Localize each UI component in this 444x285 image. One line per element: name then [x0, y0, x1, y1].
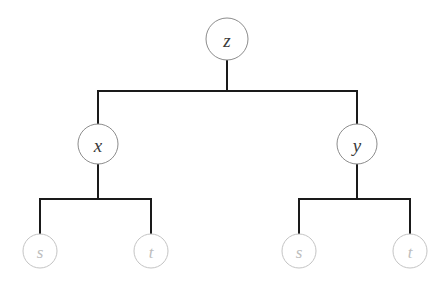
node-label: y: [351, 135, 362, 156]
node-label: s: [296, 243, 303, 262]
node-label: z: [222, 30, 231, 51]
node-label: s: [37, 243, 44, 262]
tree-node-z[interactable]: z: [206, 18, 248, 60]
tree-diagram: zxystst: [0, 0, 444, 285]
node-label: x: [93, 135, 103, 156]
tree-node-s-leaf[interactable]: s: [23, 234, 57, 268]
tree-node-y[interactable]: y: [337, 124, 377, 164]
node-layer: zxystst: [23, 18, 427, 268]
tree-node-t-leaf[interactable]: t: [134, 234, 168, 268]
tree-node-s-leaf[interactable]: s: [282, 234, 316, 268]
tree-node-t-leaf[interactable]: t: [393, 234, 427, 268]
tree-node-x[interactable]: x: [78, 124, 118, 164]
tree-diagram-canvas: zxystst: [0, 0, 444, 285]
